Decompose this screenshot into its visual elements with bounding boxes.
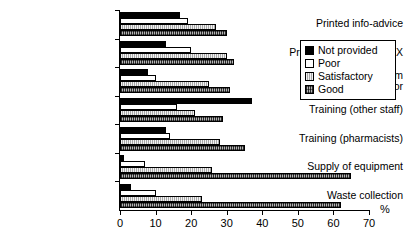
x-axis-tick-label: 20: [176, 217, 206, 230]
x-axis-tick-label: 60: [318, 217, 348, 230]
bar-good: [120, 116, 223, 122]
legend-item-good: Good: [305, 83, 391, 96]
y-axis-tick: [115, 67, 119, 68]
x-axis-tick-label: 50: [283, 217, 313, 230]
x-axis-tick: [120, 210, 121, 215]
x-axis-tick-label: 40: [247, 217, 277, 230]
legend-swatch-not-provided-icon: [305, 46, 314, 55]
x-axis-tick-label: 70: [354, 217, 384, 230]
legend-item-poor: Poor: [305, 57, 391, 70]
y-axis-tick: [115, 10, 119, 11]
legend-swatch-poor-icon: [305, 59, 314, 68]
legend-swatch-satisfactory-icon: [305, 72, 314, 81]
x-axis-unit-label: %: [380, 203, 390, 215]
category-label: Printed info-advice: [289, 18, 407, 30]
category-label: Waste collection: [289, 190, 407, 202]
bar-good: [120, 173, 351, 179]
x-axis-tick: [333, 210, 334, 215]
y-axis-tick: [115, 39, 119, 40]
legend-label-good: Good: [318, 84, 344, 95]
x-axis-tick: [262, 210, 263, 215]
x-axis-tick: [227, 210, 228, 215]
legend-label-poor: Poor: [318, 58, 340, 69]
y-axis-tick: [115, 124, 119, 125]
legend-item-not-provided: Not provided: [305, 44, 391, 57]
legend-item-satisfactory: Satisfactory: [305, 70, 391, 83]
bar-good: [120, 145, 245, 151]
x-axis-line: [119, 210, 370, 211]
legend-label-satisfactory: Satisfactory: [318, 71, 373, 82]
category-label: Training (other staff): [289, 104, 407, 116]
y-axis-tick: [115, 96, 119, 97]
legend-swatch-good-icon: [305, 85, 314, 94]
bar-good: [120, 87, 230, 93]
category-label: Training (pharmacists): [289, 133, 407, 145]
x-axis-tick-label: 10: [141, 217, 171, 230]
category-label: Supply of equipment: [289, 161, 407, 173]
x-axis-tick: [191, 210, 192, 215]
x-axis-tick: [298, 210, 299, 215]
chart-legend: Not provided Poor Satisfactory Good: [300, 40, 396, 100]
x-axis-tick-label: 30: [212, 217, 242, 230]
bar-good: [120, 59, 234, 65]
bar-good: [120, 30, 227, 36]
y-axis-tick: [115, 181, 119, 182]
x-axis-tick: [369, 210, 370, 215]
x-axis-tick: [156, 210, 157, 215]
bar-good: [120, 202, 341, 208]
x-axis-tick-label: 0: [105, 217, 135, 230]
y-axis-tick: [115, 153, 119, 154]
bar-chart: 010203040506070 Printed info-advicePrint…: [0, 0, 407, 245]
legend-label-not-provided: Not provided: [318, 45, 378, 56]
